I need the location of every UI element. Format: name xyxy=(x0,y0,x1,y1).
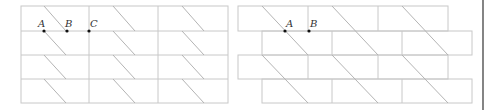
diagonal-segment xyxy=(44,31,66,55)
label-a: A xyxy=(285,18,293,29)
point-a xyxy=(42,29,45,32)
brick-row-1 xyxy=(238,6,448,31)
diagonal-segment xyxy=(44,6,66,31)
diagonal-segment xyxy=(44,55,66,79)
diagonal-segment xyxy=(182,6,204,31)
right-brick-grid xyxy=(238,6,472,103)
diagram-stage: A B C xyxy=(0,0,487,110)
diagonal-segment xyxy=(113,79,135,103)
diagonal-segment xyxy=(182,79,204,103)
label-a: A xyxy=(37,18,45,29)
diagonal-segment xyxy=(113,6,135,31)
point-b xyxy=(65,29,68,32)
diagram-canvas: A B C xyxy=(0,0,487,110)
diagonal-segment xyxy=(113,55,135,79)
point-b xyxy=(307,29,310,32)
point-a xyxy=(283,29,286,32)
label-c: C xyxy=(90,18,98,29)
diagonal-segment xyxy=(113,31,135,55)
right-brick-labels: A B xyxy=(285,18,317,29)
diagonal-segment xyxy=(182,55,204,79)
diagonal-segment xyxy=(182,31,204,55)
label-b: B xyxy=(309,18,317,29)
point-c xyxy=(87,29,90,32)
diagonal-segment xyxy=(44,79,66,103)
label-b: B xyxy=(64,18,72,29)
